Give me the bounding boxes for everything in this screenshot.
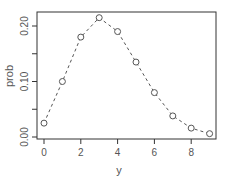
x-tick-label: 4 — [115, 147, 121, 158]
data-point — [133, 59, 139, 65]
y-tick-label: 0.10 — [19, 71, 30, 91]
x-axis: 02468 — [41, 139, 194, 158]
data-point — [96, 15, 102, 21]
data-point — [78, 34, 84, 40]
data-point — [115, 29, 121, 35]
y-tick-label: 0.00 — [19, 127, 30, 147]
data-point — [170, 113, 176, 119]
data-point — [59, 79, 65, 85]
x-tick-label: 6 — [152, 147, 158, 158]
data-point — [207, 131, 213, 137]
y-tick-label: 0.20 — [19, 16, 30, 36]
x-axis-title: y — [116, 164, 122, 176]
plot-box — [37, 12, 216, 139]
y-axis-title: prob — [3, 65, 15, 87]
data-point — [188, 125, 194, 131]
x-tick-label: 2 — [78, 147, 84, 158]
x-tick-label: 0 — [41, 147, 47, 158]
chart: 02468 0.000.100.20 y prob — [0, 0, 227, 180]
y-axis: 0.000.100.20 — [19, 16, 37, 147]
data-points — [41, 15, 213, 137]
data-point — [41, 120, 47, 126]
x-tick-label: 8 — [188, 147, 194, 158]
data-point — [151, 90, 157, 96]
series-line — [44, 18, 210, 134]
